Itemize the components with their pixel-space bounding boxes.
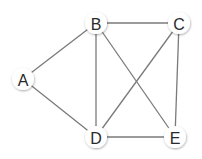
node-label: E bbox=[170, 130, 181, 147]
node-label: A bbox=[18, 72, 29, 89]
edge-a-b bbox=[23, 23, 96, 79]
node-label: B bbox=[91, 16, 102, 33]
node-b: B bbox=[85, 12, 107, 34]
graph-diagram: ABCDE bbox=[0, 0, 202, 159]
node-d: D bbox=[85, 126, 107, 148]
edge-a-d bbox=[23, 79, 96, 137]
node-e: E bbox=[164, 126, 186, 148]
node-label: D bbox=[90, 130, 102, 147]
edges-group bbox=[23, 23, 179, 137]
nodes-group: ABCDE bbox=[12, 12, 190, 148]
node-c: C bbox=[168, 12, 190, 34]
node-a: A bbox=[12, 68, 34, 90]
node-label: C bbox=[173, 16, 185, 33]
edge-c-e bbox=[175, 23, 179, 137]
